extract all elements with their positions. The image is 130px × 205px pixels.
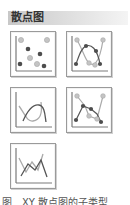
- scatter-smooth-lines-icon: [11, 88, 55, 132]
- chart-type-scatter-straight-markers-button[interactable]: [66, 87, 112, 133]
- scatter-straight-lines-icon: [11, 144, 55, 188]
- figure-caption: 图 XY 散点图的子类型: [2, 197, 108, 205]
- section-title: 散点图: [11, 11, 44, 25]
- scatter-icon: [11, 32, 55, 76]
- section-header: 散点图: [8, 11, 128, 25]
- chart-type-scatter-smooth-lines-button[interactable]: [10, 87, 56, 133]
- chart-type-scatter-smooth-markers-button[interactable]: [66, 31, 112, 77]
- chart-type-scatter-markers-button[interactable]: [10, 31, 56, 77]
- chart-type-scatter-straight-lines-button[interactable]: [10, 143, 56, 189]
- scatter-straight-markers-icon: [67, 88, 111, 132]
- scatter-smooth-markers-icon: [67, 32, 111, 76]
